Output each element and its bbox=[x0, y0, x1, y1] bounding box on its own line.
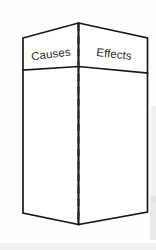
diagram-canvas: Causes Effects bbox=[0, 0, 156, 250]
folded-card-diagram: Causes Effects bbox=[0, 0, 156, 250]
scan-artifact-right bbox=[151, 106, 156, 202]
scan-artifact-corner bbox=[150, 196, 156, 240]
scan-artifact-bottom bbox=[0, 243, 156, 250]
